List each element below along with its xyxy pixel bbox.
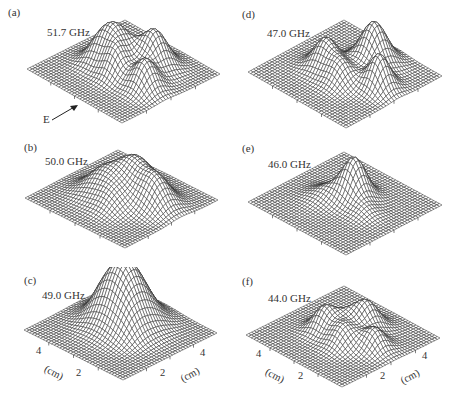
panel-d: (d) 47.0 GHz xyxy=(232,0,464,135)
surface-plot-b xyxy=(0,133,232,268)
surface-plot-c xyxy=(0,267,232,405)
panel-a: (a) 51.7 GHz E xyxy=(0,0,232,135)
frequency-label: 50.0 GHz xyxy=(45,155,88,167)
panel-label: (b) xyxy=(24,141,37,153)
surface-plot-e xyxy=(232,133,464,268)
panel-label: (c) xyxy=(24,274,36,286)
tick-label: 2 xyxy=(380,370,385,381)
panel-label: (d) xyxy=(242,8,255,20)
frequency-label: 49.0 GHz xyxy=(42,289,85,301)
frequency-label: 44.0 GHz xyxy=(268,292,311,304)
tick-label: 4 xyxy=(256,348,261,359)
panel-label: (a) xyxy=(8,6,20,18)
surface-plot-d xyxy=(232,0,464,135)
surface-plot-a xyxy=(0,0,232,135)
tick-label: 4 xyxy=(36,345,41,356)
panel-b: (b) 50.0 GHz xyxy=(0,133,232,268)
tick-label: 4 xyxy=(200,347,205,358)
polarization-arrow-icon xyxy=(48,98,88,128)
panel-c: (c) 49.0 GHz 4 (cm) 2 2 (cm) 4 xyxy=(0,267,232,405)
frequency-label: 51.7 GHz xyxy=(47,26,90,38)
tick-label: 2 xyxy=(76,367,81,378)
panel-label: (e) xyxy=(242,142,254,154)
panel-label: (f) xyxy=(242,275,253,287)
tick-label: 2 xyxy=(298,370,303,381)
frequency-label: 46.0 GHz xyxy=(268,158,311,170)
surface-plot-f xyxy=(232,267,464,405)
panel-e: (e) 46.0 GHz xyxy=(232,133,464,268)
tick-label: 4 xyxy=(422,350,427,361)
frequency-label: 47.0 GHz xyxy=(267,27,310,39)
tick-label: 2 xyxy=(160,367,165,378)
panel-f: (f) 44.0 GHz 4 (cm) 2 2 (cm) 4 xyxy=(232,267,464,405)
